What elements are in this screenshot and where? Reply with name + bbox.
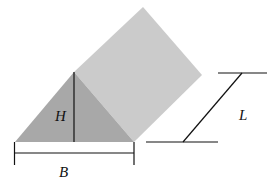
- base-label: B: [59, 165, 68, 180]
- prism-diagram: H B L: [0, 0, 274, 183]
- height-label: H: [55, 109, 66, 124]
- length-label: L: [239, 108, 247, 123]
- prism-drawing: [0, 0, 274, 183]
